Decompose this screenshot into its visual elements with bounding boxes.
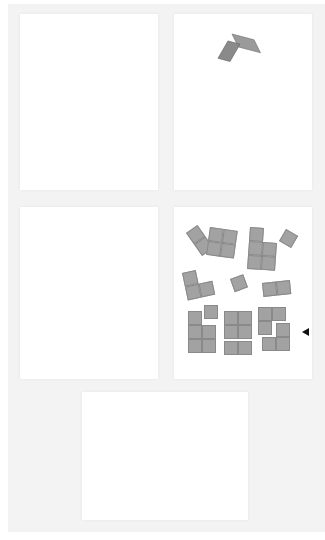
- beans-panel: [20, 14, 158, 190]
- tiles-panel: [174, 207, 312, 379]
- grid-panel: [82, 392, 248, 520]
- cubes-stack: [174, 14, 312, 164]
- pointer-arrow-icon: [302, 328, 309, 336]
- ten-frames-panel: [20, 207, 158, 379]
- beans-illustration: [20, 14, 158, 164]
- cubes-panel: [174, 14, 312, 190]
